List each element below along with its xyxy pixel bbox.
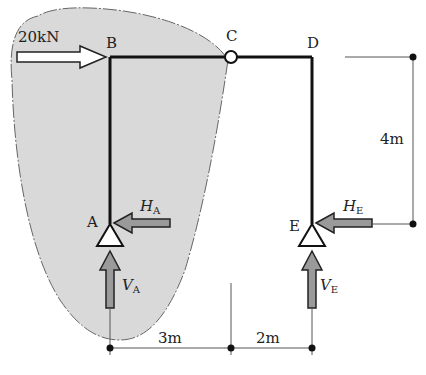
reaction-he-arrow-icon <box>316 213 372 233</box>
dimension-4m-label: 4m <box>380 130 404 148</box>
node-c-label: C <box>226 27 237 45</box>
node-d-label: D <box>307 34 319 52</box>
dimension-2m-label: 2m <box>256 329 280 347</box>
node-e-label: E <box>289 217 300 235</box>
frame-diagram: 20kN B C D A E HA HE VA VE 3m 2m 4m <box>0 0 426 375</box>
pin-support-e-icon <box>299 224 325 246</box>
hinge-c-icon <box>225 51 237 63</box>
node-a-label: A <box>86 213 98 231</box>
dimension-3m-label: 3m <box>158 329 182 347</box>
load-label: 20kN <box>18 28 59 46</box>
reaction-ve-arrow-icon <box>302 251 322 308</box>
node-b-label: B <box>106 34 117 52</box>
reaction-he-label: HE <box>342 197 363 216</box>
reaction-ve-label: VE <box>320 276 338 295</box>
